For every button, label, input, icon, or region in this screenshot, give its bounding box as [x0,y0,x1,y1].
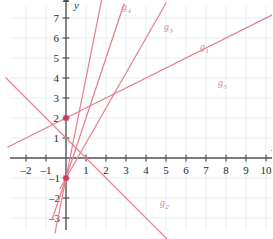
function-label-sub-g2: 2 [166,203,170,211]
x-tick-label: –2 [20,164,32,176]
x-tick-label: 3 [123,164,129,176]
chart-svg: –2–112345678910–3–2–11234567 g1g2g3g4g5 … [0,0,272,239]
function-label-text-g2: g [160,197,165,208]
function-label-text-g5: g [218,77,223,88]
function-label-text-g3: g [164,21,169,32]
function-label-g4: g4 [122,1,132,15]
function-label-sub-g3: 3 [169,27,174,35]
function-label-g2: g2 [160,197,170,211]
y-axis-name: y [73,0,79,11]
x-tick-label: 1 [83,164,89,176]
function-label-text-g4: g [122,1,127,12]
y-axis-arrowhead [63,0,70,2]
y-tick-label: 3 [54,92,60,104]
x-tick-label: 2 [103,164,109,176]
y-tick-label: 7 [54,12,60,24]
function-labels-layer: g1g2g3g4g5 [122,1,228,211]
axis-names-layer: xy [73,0,272,153]
function-label-sub-g1: 1 [206,47,210,55]
function-line-g1 [60,3,166,189]
x-tick-label: 6 [183,164,189,176]
function-label-g3: g3 [164,21,174,35]
y-tick-label: 1 [54,132,60,144]
x-axis-name: x [271,141,272,153]
x-tick-label: 9 [243,164,249,176]
function-label-g1: g1 [200,41,209,55]
y-tick-label: –1 [48,172,60,184]
function-label-text-g1: g [200,41,205,52]
marked-point-0-2 [63,115,68,120]
x-tick-label: 10 [261,164,273,176]
marked-point-0-minus1 [63,175,68,180]
function-label-sub-g5: 5 [224,83,228,91]
x-tick-label: 4 [143,164,149,176]
function-line-g5 [8,14,272,147]
y-tick-label: 5 [54,52,60,64]
coordinate-plane-figure: –2–112345678910–3–2–11234567 g1g2g3g4g5 … [0,0,272,239]
x-tick-label: 8 [223,164,229,176]
function-line-g3 [52,4,124,220]
x-tick-label: 7 [203,164,209,176]
function-label-sub-g4: 4 [128,7,132,15]
y-tick-label: 6 [54,32,60,44]
x-tick-label: 5 [163,164,169,176]
y-tick-label: 4 [54,72,60,84]
